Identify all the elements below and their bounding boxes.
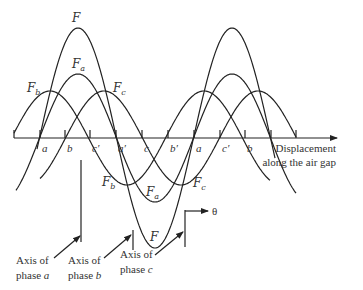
label-F-bottom: F: [149, 230, 159, 244]
tick-label: a: [196, 142, 202, 154]
tick-label: b′: [170, 142, 179, 154]
label-Fb-top: Fb: [26, 81, 40, 97]
axis-ticks: [14, 130, 296, 138]
tick-label: c: [144, 142, 149, 154]
mmf-diagram: abc′a′cb′ac′b F Fa Fb Fc Fb Fa Fc F Disp…: [0, 0, 363, 290]
theta-label: θ: [212, 205, 217, 217]
label-Fa-bottom: Fa: [145, 185, 159, 201]
phase-c-pointer-arrow: [155, 232, 183, 255]
tick-label: b: [67, 142, 73, 154]
tick-label: c′: [222, 142, 230, 154]
phase-b-label-line1: Axis of: [68, 254, 101, 266]
phase-c-label-line1: Axis of: [120, 248, 153, 260]
tick-label: a: [42, 142, 48, 154]
axis-label-line2: along the air gap: [262, 156, 336, 168]
phase-c-label-line2: phase c: [120, 263, 153, 275]
phase-a-label-line1: Axis of: [16, 254, 49, 266]
label-Fc-bottom: Fc: [192, 176, 206, 192]
phase-b-label-line2: phase b: [68, 269, 102, 281]
label-Fc-top: Fc: [112, 81, 126, 97]
tick-labels: abc′a′cb′ac′b: [42, 142, 253, 154]
tick-label: b: [247, 142, 253, 154]
label-Fa-top: Fa: [71, 57, 85, 73]
phase-a-label-line2: phase a: [16, 269, 50, 281]
tick-label: a′: [118, 142, 127, 154]
label-F: F: [71, 11, 81, 25]
axis-label-line1: Displacement: [276, 142, 336, 154]
tick-label: c′: [92, 142, 100, 154]
